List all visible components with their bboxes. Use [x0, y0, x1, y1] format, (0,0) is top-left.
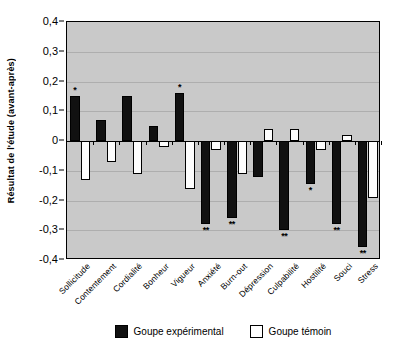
- significance-marker: **: [281, 232, 287, 241]
- significance-marker: **: [229, 220, 235, 229]
- x-tick-mark: [224, 141, 225, 145]
- x-tick-mark: [276, 141, 277, 145]
- x-tick-label: Vigueur: [169, 261, 197, 289]
- bar-control: [238, 141, 248, 174]
- x-tick-mark: [303, 141, 304, 145]
- y-axis-title: Résultat de l'étude (avant-après): [7, 58, 16, 203]
- legend-item: Goupe témoin: [250, 325, 332, 338]
- bar-control: [185, 141, 195, 189]
- chart-legend: Goupe expérimentalGoupe témoin: [66, 318, 380, 344]
- y-tick-label: -0,2: [39, 194, 58, 206]
- bar-experimental: [279, 141, 289, 230]
- bar-experimental: [96, 120, 106, 141]
- y-tick-mark: [59, 110, 64, 111]
- x-tick-mark: [329, 141, 330, 145]
- bar-experimental: [70, 96, 80, 141]
- bar-experimental: [175, 93, 185, 141]
- y-tick-mark: [59, 21, 64, 22]
- significance-marker: **: [203, 226, 209, 235]
- bar-control: [264, 129, 274, 141]
- y-tick-label: 0,1: [43, 104, 58, 116]
- significance-marker: **: [360, 249, 366, 258]
- y-tick-mark: [59, 229, 64, 230]
- plot-inner: *************: [67, 22, 379, 258]
- x-tick-mark: [381, 141, 382, 145]
- legend-label: Goupe expérimental: [134, 326, 224, 337]
- y-tick-label: -0,1: [39, 164, 58, 176]
- y-tick-mark: [59, 259, 64, 260]
- bar-control: [290, 129, 300, 141]
- y-tick-label: -0,3: [39, 223, 58, 235]
- bar-experimental: [253, 141, 263, 177]
- x-tick-label: Stress: [355, 261, 380, 286]
- significance-marker: *: [73, 86, 76, 95]
- x-tick-mark: [119, 141, 120, 145]
- bar-experimental: [227, 141, 237, 218]
- x-tick-mark: [146, 141, 147, 145]
- y-tick-label: -0,4: [39, 253, 58, 265]
- significance-marker: *: [309, 186, 312, 195]
- legend-swatch-experimental-icon: [115, 325, 128, 338]
- x-tick-label: Hostilité: [299, 261, 328, 290]
- y-tick-mark: [59, 169, 64, 170]
- gridline: [67, 111, 379, 112]
- significance-marker: **: [333, 226, 339, 235]
- plot-area: *************: [66, 21, 380, 259]
- bar-experimental: [149, 126, 159, 141]
- bar-experimental: [358, 141, 368, 247]
- y-axis-title-container: Résultat de l'étude (avant-après): [0, 0, 22, 262]
- bar-control: [159, 141, 169, 147]
- x-tick-label: Bonheur: [140, 261, 170, 291]
- x-axis-tick-labels: SollicitudeContentementCordialitéBonheur…: [66, 259, 380, 319]
- bar-control: [342, 135, 352, 141]
- bar-control: [211, 141, 221, 150]
- x-tick-label: Souci: [331, 261, 353, 283]
- x-tick-mark: [172, 141, 173, 145]
- bar-experimental: [122, 96, 132, 141]
- legend-swatch-control-icon: [250, 325, 263, 338]
- bar-control: [133, 141, 143, 174]
- y-tick-mark: [59, 50, 64, 51]
- y-tick-mark: [59, 140, 64, 141]
- x-tick-mark: [198, 141, 199, 145]
- y-axis-tick-labels: 0,40,30,20,10-0,1-0,2-0,3-0,4: [22, 21, 64, 259]
- x-tick-mark: [355, 141, 356, 145]
- y-tick-label: 0,4: [43, 15, 58, 27]
- bar-experimental: [332, 141, 342, 224]
- chart-figure: Résultat de l'étude (avant-après) 0,40,3…: [0, 0, 398, 350]
- x-tick-mark: [93, 141, 94, 145]
- bar-experimental: [306, 141, 316, 184]
- x-tick-mark: [250, 141, 251, 145]
- gridline: [67, 230, 379, 231]
- bar-control: [316, 141, 326, 150]
- y-tick-mark: [59, 199, 64, 200]
- y-tick-mark: [59, 80, 64, 81]
- bar-control: [81, 141, 91, 180]
- y-tick-label: 0,3: [43, 45, 58, 57]
- legend-item: Goupe expérimental: [115, 325, 224, 338]
- bar-control: [107, 141, 117, 162]
- bar-control: [368, 141, 378, 198]
- gridline: [67, 52, 379, 53]
- significance-marker: *: [178, 83, 181, 92]
- y-tick-label: 0: [52, 134, 58, 146]
- legend-label: Goupe témoin: [269, 326, 332, 337]
- gridline: [67, 82, 379, 83]
- bar-experimental: [201, 141, 211, 224]
- y-tick-label: 0,2: [43, 75, 58, 87]
